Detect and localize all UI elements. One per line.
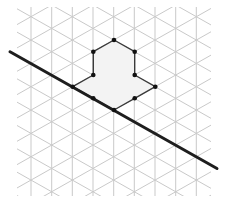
shaded-polygon	[73, 40, 156, 110]
grid-diagonal-line	[0, 215, 231, 216]
vertex-dot	[70, 84, 75, 89]
vertex-dot	[112, 38, 117, 43]
isometric-grid-diagram	[0, 0, 231, 216]
vertex-dot	[91, 49, 96, 54]
vertex-dot	[91, 73, 96, 78]
vertex-dot	[132, 96, 137, 101]
grid-diagonal-line	[0, 0, 231, 5]
vertex-dot	[112, 108, 117, 113]
vertex-dot	[132, 49, 137, 54]
vertex-dot	[153, 84, 158, 89]
vertex-dot	[132, 73, 137, 78]
vertex-dot	[91, 96, 96, 101]
grid-diagonal-line	[0, 204, 231, 216]
